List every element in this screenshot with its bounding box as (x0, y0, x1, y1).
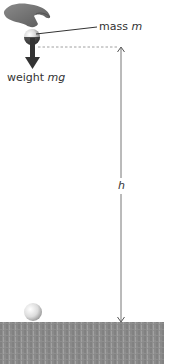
ground-icon (0, 322, 164, 364)
mass-label: mass m (99, 21, 142, 32)
height-symbol: h (118, 179, 125, 192)
free-fall-diagram: mass m weight mg h (0, 0, 169, 364)
diagram-graphics (0, 0, 169, 364)
weight-label-text: weight (7, 71, 48, 84)
hand-icon (4, 3, 50, 27)
weight-symbol: mg (48, 71, 66, 84)
height-label: h (118, 180, 125, 191)
mass-label-text: mass (99, 20, 131, 33)
mass-leader-line (36, 27, 97, 34)
weight-label: weight mg (7, 72, 65, 83)
ball-bottom-icon (24, 303, 42, 321)
mass-symbol: m (131, 20, 142, 33)
